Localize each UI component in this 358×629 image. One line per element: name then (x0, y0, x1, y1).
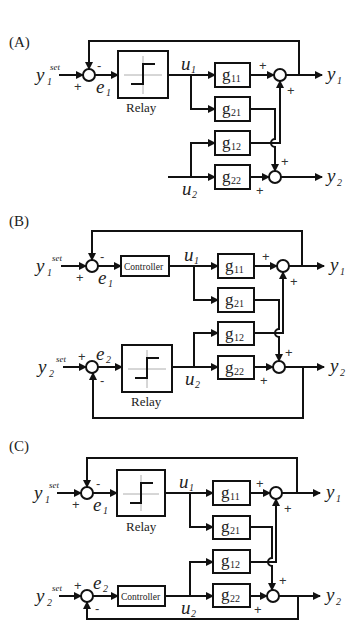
svg-text:+: + (76, 270, 84, 285)
panel-label: (C) (9, 438, 29, 455)
setpoint-y1-label: y 1 set (34, 253, 62, 278)
svg-text:+: + (72, 497, 80, 512)
svg-text:y: y (325, 63, 336, 84)
svg-text:11: 11 (231, 73, 241, 84)
svg-text:u: u (181, 597, 191, 618)
svg-text:y: y (36, 356, 47, 377)
svg-text:2: 2 (49, 368, 54, 379)
svg-text:y: y (328, 254, 339, 275)
svg-text:g: g (221, 585, 230, 604)
u2-label: u 2 (181, 597, 196, 619)
svg-text:y: y (34, 255, 45, 276)
panel-a: (A) y 1 set + - e 1 Relay u 1 (9, 34, 342, 200)
panel-c: (C) y 1 set + - e 1 Relay u 1 g11 (9, 438, 341, 619)
svg-text:y: y (34, 585, 45, 606)
svg-text:g: g (222, 133, 231, 152)
panel-label: (B) (9, 213, 29, 230)
output-summing-junction-1 (270, 487, 282, 499)
svg-text:e: e (93, 494, 101, 515)
output-y2-label: y 2 (324, 584, 341, 607)
svg-text:+: + (260, 373, 268, 388)
panel-label: (A) (9, 34, 30, 51)
svg-text:+: + (256, 476, 264, 491)
svg-text:g: g (222, 167, 231, 186)
svg-text:set: set (52, 583, 62, 593)
svg-text:g: g (222, 65, 231, 84)
svg-text:+: + (254, 602, 262, 617)
svg-text:g: g (221, 483, 230, 502)
svg-text:22: 22 (234, 366, 244, 377)
svg-text:1: 1 (194, 255, 199, 266)
svg-text:1: 1 (337, 75, 342, 86)
svg-text:+: + (281, 154, 289, 169)
svg-text:1: 1 (47, 267, 52, 278)
output-y2-label: y 2 (325, 165, 342, 188)
svg-text:g: g (225, 290, 234, 309)
svg-text:-: - (95, 601, 99, 616)
svg-text:u: u (179, 471, 189, 492)
svg-text:+: + (284, 501, 292, 516)
svg-text:2: 2 (336, 596, 341, 607)
setpoint-y1-label: y 1 set (32, 480, 59, 505)
output-y1-label: y 1 (325, 63, 342, 86)
setpoint-y2-label: y 2 set (34, 583, 62, 608)
svg-text:12: 12 (230, 559, 240, 570)
svg-text:g: g (225, 324, 234, 343)
output-summing-junction-1 (274, 69, 286, 81)
svg-text:+: + (256, 183, 264, 198)
svg-text:2: 2 (103, 583, 108, 594)
svg-text:g: g (222, 99, 231, 118)
u2-label: u 2 (185, 368, 200, 390)
output-summing-junction-2 (267, 590, 279, 602)
svg-text:1: 1 (47, 76, 52, 87)
svg-text:set: set (49, 480, 59, 490)
svg-text:22: 22 (231, 175, 241, 186)
svg-text:-: - (96, 476, 100, 491)
svg-text:u: u (181, 53, 191, 74)
svg-text:+: + (279, 573, 287, 588)
svg-text:e: e (96, 76, 104, 97)
svg-text:11: 11 (234, 264, 244, 275)
svg-text:1: 1 (108, 278, 113, 289)
output-summing-junction-1 (277, 260, 289, 272)
svg-text:y: y (34, 64, 45, 85)
svg-text:21: 21 (230, 525, 240, 536)
svg-text:12: 12 (234, 332, 244, 343)
svg-text:2: 2 (192, 189, 197, 200)
error-e1-label: e 1 (98, 267, 113, 289)
svg-text:1: 1 (191, 64, 196, 75)
svg-text:+: + (290, 274, 298, 289)
output-y1-label: y 1 (324, 481, 341, 504)
error-summing-junction-2 (81, 590, 93, 602)
svg-text:2: 2 (340, 367, 345, 378)
svg-text:1: 1 (103, 505, 108, 516)
error-summing-junction-1 (81, 487, 93, 499)
svg-text:12: 12 (231, 141, 241, 152)
svg-text:g: g (225, 256, 234, 275)
error-summing-junction (83, 69, 95, 81)
relay-caption: Relay (131, 394, 162, 409)
svg-text:u: u (182, 178, 192, 199)
svg-text:e: e (93, 572, 101, 593)
svg-text:+: + (78, 349, 86, 364)
svg-text:g: g (221, 551, 230, 570)
setpoint-y2-label: y 2 set (36, 354, 66, 379)
error-e2-label: e 2 (96, 343, 111, 365)
output-y1-label: y 1 (328, 254, 345, 277)
u1-label: u 1 (184, 244, 199, 266)
plus-sign: + (74, 79, 82, 94)
svg-text:set: set (56, 354, 66, 364)
error-e2-label: e 2 (93, 572, 108, 594)
svg-text:21: 21 (231, 107, 241, 118)
svg-text:+: + (285, 345, 293, 360)
svg-text:Controller: Controller (124, 262, 164, 272)
panel-b: (B) y 1 set + - e 1 Controller u 1 g11 g… (9, 213, 345, 418)
error-e1-label: e 1 (96, 76, 111, 98)
u1-label: u 1 (181, 53, 196, 75)
svg-text:22: 22 (230, 593, 240, 604)
svg-text:11: 11 (230, 491, 240, 502)
svg-text:1: 1 (336, 493, 341, 504)
svg-text:-: - (100, 373, 104, 388)
svg-text:+: + (262, 249, 270, 264)
relay-caption: Relay (126, 519, 157, 534)
